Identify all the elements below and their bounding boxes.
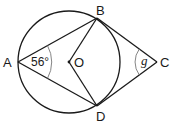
circle-geometry-diagram: A B D O C 56° g	[0, 0, 181, 126]
tangent-bc	[97, 18, 157, 62]
angle-label-bcd: g	[141, 53, 148, 68]
chord-ad	[18, 62, 97, 106]
point-label-o: O	[74, 55, 84, 70]
point-label-a: A	[3, 55, 12, 70]
point-label-c: C	[160, 55, 169, 70]
chord-ab	[18, 18, 97, 62]
point-label-b: B	[96, 3, 105, 18]
centre-point	[68, 61, 71, 64]
tangent-dc	[97, 62, 157, 106]
angle-arc-c	[135, 49, 139, 75]
point-label-d: D	[96, 109, 105, 124]
angle-label-bad: 56°	[31, 55, 49, 69]
